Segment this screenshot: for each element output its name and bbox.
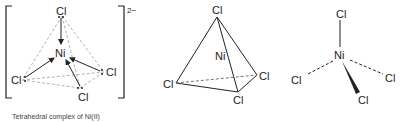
caption: Tetrahedral complex of Ni(II) [12, 113, 100, 121]
bond-dashed-left [308, 61, 333, 74]
chemistry-figure: 2− Cl Ni Cl Cl Cl Tetra [0, 0, 406, 122]
ligand-cl-top: Cl [212, 4, 222, 16]
ligand-cl-left: Cl [11, 74, 21, 86]
ligand-cl-right: Cl [106, 66, 116, 78]
hidden-edge [176, 75, 257, 83]
bond-dashed-right [350, 60, 383, 74]
ligand-cl-bottom: Cl [233, 94, 243, 106]
ligand-cl-top: Cl [336, 8, 346, 20]
center-atom-ni: Ni [55, 47, 65, 59]
panel-tetrahedron: Cl Ni Cl Cl Cl [163, 4, 269, 106]
right-bracket [118, 6, 124, 98]
bond-wedge [342, 61, 360, 94]
ligand-cl-left: Cl [163, 78, 173, 90]
panel-wedge-dash: Cl Ni Cl Cl Cl [291, 8, 395, 106]
center-atom-ni: Ni [334, 49, 344, 61]
ligand-cl-bottom: Cl [78, 91, 88, 103]
center-atom-ni: Ni [215, 50, 225, 62]
ligand-cl-right: Cl [259, 70, 269, 82]
ligand-cl-left: Cl [291, 74, 301, 86]
panel-lewis-structure: 2− Cl Ni Cl Cl Cl Tetra [6, 5, 136, 121]
ligand-cl-top: Cl [56, 5, 66, 17]
charge-label: 2− [127, 6, 136, 15]
ligand-cl-bottom: Cl [358, 94, 368, 106]
ligand-cl-right: Cl [385, 72, 395, 84]
